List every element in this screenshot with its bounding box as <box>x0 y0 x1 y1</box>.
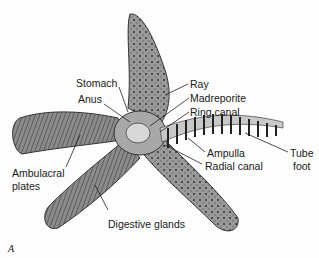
label-ring-canal: Ring canal <box>190 107 240 118</box>
label-ray: Ray <box>190 79 209 90</box>
label-ampulla: Ampulla <box>207 148 245 159</box>
ray-upper-left <box>13 112 122 154</box>
ray-lower-left <box>45 140 140 229</box>
label-radial-canal: Radial canal <box>205 161 263 172</box>
label-tube-foot-line2: foot <box>293 161 311 172</box>
sea-star-diagram: Stomach Anus Ray Madreporite Ring canal … <box>0 0 319 258</box>
label-stomach: Stomach <box>76 78 117 89</box>
ray-upper <box>128 14 169 125</box>
figure-letter: A <box>8 243 14 254</box>
label-digestive-glands: Digestive glands <box>108 219 185 230</box>
label-madreporite: Madreporite <box>190 93 246 104</box>
label-tube-foot-line1: Tube <box>290 148 314 159</box>
label-anus: Anus <box>78 94 102 105</box>
label-ambulacral-line1: Ambulacral <box>12 168 65 179</box>
label-ambulacral-line2: plates <box>12 181 40 192</box>
